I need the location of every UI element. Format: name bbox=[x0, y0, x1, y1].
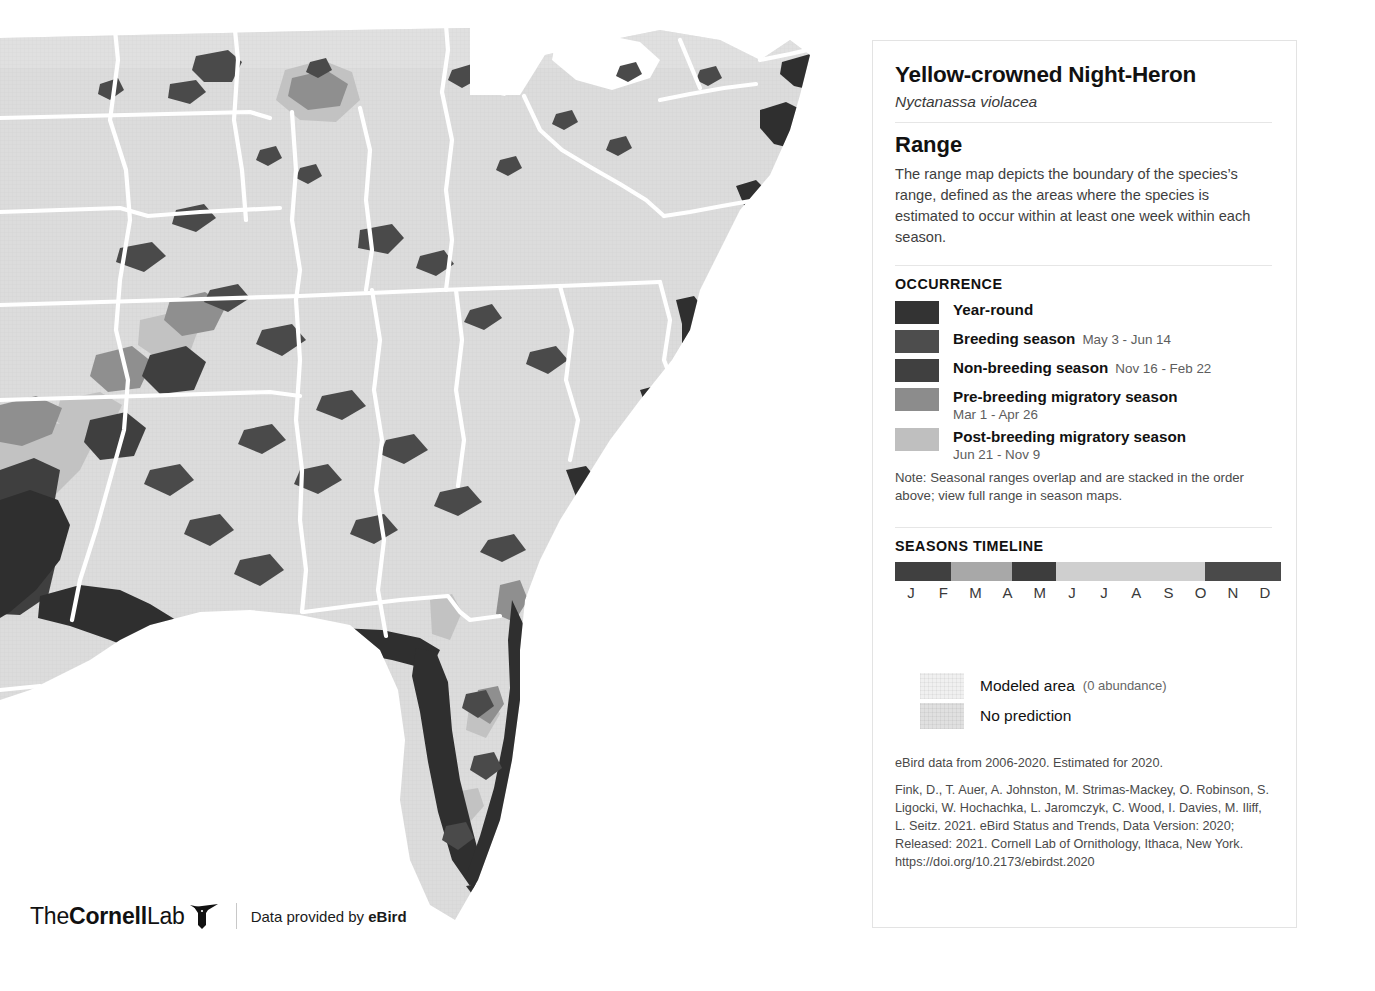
occurrence-legend: Year-roundBreeding seasonMay 3 - Jun 14N… bbox=[895, 300, 1272, 462]
bird-icon bbox=[188, 901, 222, 931]
divider-above-occurrence bbox=[895, 265, 1272, 266]
logo-cornell: Cornell bbox=[69, 903, 147, 930]
occurrence-name: Pre-breeding migratory season bbox=[953, 388, 1178, 405]
modeled-legend-label: Modeled area bbox=[980, 677, 1075, 695]
occurrence-dates: Nov 16 - Feb 22 bbox=[1115, 361, 1211, 376]
citation-data-line: eBird data from 2006-2020. Estimated for… bbox=[895, 755, 1272, 773]
species-scientific-name: Nyctanassa violacea bbox=[895, 93, 1272, 110]
timeline-month-label: M bbox=[1024, 584, 1056, 601]
modeled-area-legend: Modeled area(0 abundance)No prediction bbox=[920, 673, 1272, 729]
occurrence-note: Note: Seasonal ranges overlap and are st… bbox=[895, 469, 1272, 505]
species-common-name: Yellow-crowned Night-Heron bbox=[895, 63, 1272, 88]
occurrence-row: Non-breeding seasonNov 16 - Feb 22 bbox=[895, 358, 1272, 382]
timeline-month-label: D bbox=[1249, 584, 1281, 601]
timeline-segment-breeding bbox=[1012, 562, 1056, 581]
occurrence-name: Year-round bbox=[953, 301, 1033, 318]
occurrence-swatch bbox=[895, 388, 939, 411]
timeline-month-label: J bbox=[1088, 584, 1120, 601]
occurrence-dates: May 3 - Jun 14 bbox=[1082, 332, 1171, 347]
timeline-month-label: F bbox=[927, 584, 959, 601]
occurrence-text: Year-round bbox=[953, 300, 1033, 319]
occurrence-swatch bbox=[895, 359, 939, 382]
credit-brand: eBird bbox=[368, 908, 406, 925]
species-info-panel: Yellow-crowned Night-Heron Nyctanassa vi… bbox=[872, 40, 1297, 928]
occurrence-dates: Jun 21 - Nov 9 bbox=[953, 447, 1186, 462]
occurrence-row: Breeding seasonMay 3 - Jun 14 bbox=[895, 329, 1272, 353]
timeline-segment-pre-breeding bbox=[951, 562, 1011, 581]
occurrence-swatch bbox=[895, 301, 939, 324]
occurrence-text: Breeding seasonMay 3 - Jun 14 bbox=[953, 329, 1171, 348]
range-map-figure: TheCornellLab Data provided by eBird Yel… bbox=[0, 0, 1375, 991]
timeline-month-label: M bbox=[959, 584, 991, 601]
divider-above-timeline bbox=[895, 527, 1272, 528]
occurrence-swatch bbox=[895, 330, 939, 353]
occurrence-name: Post-breeding migratory season bbox=[953, 428, 1186, 445]
seasons-timeline-months: JFMAMJJASOND bbox=[895, 584, 1281, 601]
timeline-month-label: J bbox=[895, 584, 927, 601]
timeline-month-label: N bbox=[1217, 584, 1249, 601]
modeled-legend-label: No prediction bbox=[980, 707, 1071, 725]
occurrence-heading: OCCURRENCE bbox=[895, 276, 1272, 292]
citation-reference: Fink, D., T. Auer, A. Johnston, M. Strim… bbox=[895, 781, 1272, 871]
occurrence-row: Year-round bbox=[895, 300, 1272, 324]
timeline-segment-non-breeding bbox=[895, 562, 951, 581]
occurrence-dates: Mar 1 - Apr 26 bbox=[953, 407, 1178, 422]
cornell-lab-logo[interactable]: TheCornellLab bbox=[30, 901, 222, 931]
occurrence-swatch bbox=[895, 428, 939, 451]
seasons-timeline-bar[interactable] bbox=[895, 562, 1281, 581]
timeline-month-label: O bbox=[1185, 584, 1217, 601]
occurrence-row: Post-breeding migratory seasonJun 21 - N… bbox=[895, 427, 1272, 462]
modeled-legend-row: Modeled area(0 abundance) bbox=[920, 673, 1272, 699]
timeline-month-label: S bbox=[1152, 584, 1184, 601]
attribution-divider bbox=[236, 903, 237, 929]
timeline-heading: SEASONS TIMELINE bbox=[895, 538, 1272, 554]
timeline-segment-post-breeding bbox=[1056, 562, 1205, 581]
ebird-credit: Data provided by eBird bbox=[251, 908, 407, 925]
occurrence-text: Pre-breeding migratory seasonMar 1 - Apr… bbox=[953, 387, 1178, 422]
timeline-month-label: A bbox=[992, 584, 1024, 601]
modeled-legend-swatch bbox=[920, 703, 964, 729]
logo-lab: Lab bbox=[147, 903, 185, 930]
timeline-month-label: J bbox=[1056, 584, 1088, 601]
range-description: The range map depicts the boundary of th… bbox=[895, 164, 1272, 249]
occurrence-row: Pre-breeding migratory seasonMar 1 - Apr… bbox=[895, 387, 1272, 422]
occurrence-text: Post-breeding migratory seasonJun 21 - N… bbox=[953, 427, 1186, 462]
modeled-legend-sublabel: (0 abundance) bbox=[1083, 678, 1167, 693]
citation-block: eBird data from 2006-2020. Estimated for… bbox=[895, 755, 1272, 872]
map-panel[interactable]: TheCornellLab Data provided by eBird bbox=[0, 0, 872, 991]
credit-prefix: Data provided by bbox=[251, 908, 369, 925]
logo-the: The bbox=[30, 903, 69, 930]
divider-above-range bbox=[895, 122, 1272, 123]
section-title-range: Range bbox=[895, 133, 1272, 157]
occurrence-name: Non-breeding season bbox=[953, 359, 1108, 376]
modeled-legend-swatch bbox=[920, 673, 964, 699]
timeline-segment-non-breeding bbox=[1205, 562, 1281, 581]
timeline-month-label: A bbox=[1120, 584, 1152, 601]
occurrence-name: Breeding season bbox=[953, 330, 1075, 347]
modeled-legend-row: No prediction bbox=[920, 703, 1272, 729]
range-map-graphic[interactable] bbox=[0, 0, 872, 991]
occurrence-text: Non-breeding seasonNov 16 - Feb 22 bbox=[953, 358, 1211, 377]
attribution-bar: TheCornellLab Data provided by eBird bbox=[30, 901, 407, 931]
